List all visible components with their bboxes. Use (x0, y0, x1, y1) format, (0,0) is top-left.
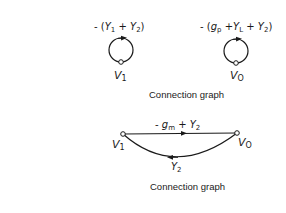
loop-v0-edge (224, 39, 248, 63)
node-v0-label: VO (230, 69, 244, 83)
node-v0 (235, 131, 240, 136)
node-v1-label: V1 (114, 69, 127, 83)
node-v1 (121, 132, 126, 137)
edge-v1-to-v0-label: - gm + Y2 (155, 119, 200, 132)
loop-v1-label: - (Y1 + Y2) (94, 21, 145, 34)
node-v1 (119, 60, 124, 65)
edge-v0-to-v1-label: Y2 (171, 161, 182, 174)
edge-v0-to-v1 (123, 133, 237, 157)
graph2-caption: Connection graph (150, 181, 225, 192)
self-loop-v0: - (gp +YL + Y2) VO (200, 21, 272, 83)
node-v1-label: V1 (112, 138, 125, 152)
two-node-graph: - gm + Y2 Y2 V1 VO (112, 119, 252, 174)
connection-graphs-diagram: - (Y1 + Y2) V1 - (gp +YL + Y2) VO Connec… (0, 0, 286, 213)
loop-v0-label: - (gp +YL + Y2) (200, 21, 272, 34)
graph1-caption: Connection graph (149, 89, 224, 100)
loop-v1-edge (109, 38, 133, 62)
self-loop-v1: - (Y1 + Y2) V1 (94, 21, 145, 83)
node-v0 (234, 61, 239, 66)
node-v0-label: VO (238, 136, 252, 150)
